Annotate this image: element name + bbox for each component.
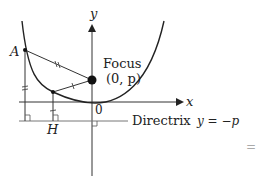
edge-mark: =	[246, 140, 256, 154]
focus-label: Focus	[103, 56, 141, 71]
focus-point	[88, 76, 97, 85]
point-a	[23, 48, 27, 52]
point-a-label: A	[9, 44, 19, 59]
parabola-curve	[22, 21, 164, 103]
point-p	[51, 90, 55, 94]
origin-label: 0	[95, 103, 103, 117]
directrix-equation: y = −p	[196, 114, 240, 128]
right-angle-marker-h	[53, 115, 58, 121]
directrix-label: Directrix	[132, 113, 191, 128]
single-tick-p-h	[50, 110, 56, 111]
right-angle-marker-axis	[92, 121, 97, 126]
focus-coords-label: (0, p)	[106, 71, 141, 86]
point-h-label: H	[46, 122, 59, 137]
y-axis-label: y	[89, 6, 98, 21]
right-angle-marker-a	[25, 115, 30, 121]
x-axis-label: x	[186, 94, 194, 109]
parabola-diagram: y x 0 Focus (0, p) A H Directrix y = −p …	[0, 0, 260, 181]
